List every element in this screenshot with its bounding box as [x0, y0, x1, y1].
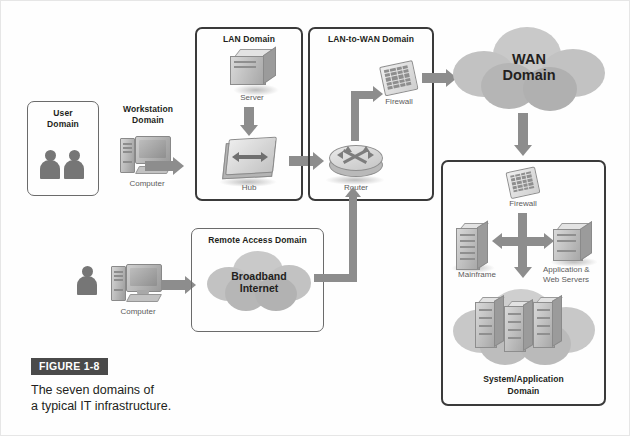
arrow-workstation-to-lan-head — [173, 157, 184, 175]
arrow-router-to-firewall-horizontal — [351, 91, 373, 99]
workstation-domain-title-line1: Workstation — [123, 104, 173, 114]
user-domain-title-line1: User — [53, 108, 72, 118]
sysapp-servers-caption-line2: Web Servers — [543, 275, 589, 284]
figure-badge: FIGURE 1-8 — [31, 358, 108, 375]
sysapp-servers-caption: Application & Web Servers — [543, 265, 611, 285]
remote-access-domain-title: Remote Access Domain — [191, 235, 324, 246]
arrow-remote-computer-shaft — [161, 280, 185, 290]
arrow-remote-to-router-vertical — [349, 197, 357, 282]
sysapp-cloud-server-3 — [533, 297, 567, 349]
lan-hub-caption: Hub — [214, 183, 284, 193]
sysapp-servers-caption-line1: Application & — [543, 265, 590, 274]
sysapp-arrow-head-down — [514, 267, 532, 278]
sysapp-mainframe-caption: Mainframe — [444, 270, 510, 280]
figure-caption: The seven domains of a typical IT infras… — [31, 382, 291, 414]
lan-server-caption: Server — [217, 93, 287, 103]
arrow-server-to-hub-head — [240, 125, 258, 136]
wan-domain-title-line2: Domain — [502, 67, 555, 83]
remote-computer-icon — [109, 262, 167, 306]
figure-caption-line2: a typical IT infrastructure. — [31, 399, 171, 413]
lan-domain-title-text: LAN Domain — [223, 34, 275, 44]
broadband-internet-cloud: Broadband Internet — [207, 251, 311, 315]
user-person-1-icon — [39, 150, 61, 180]
lan-to-wan-domain-title-text: LAN-to-WAN Domain — [328, 34, 414, 44]
figure-page: User Domain Workstation Domain Computer — [0, 0, 630, 436]
figure-caption-line1: The seven domains of — [31, 383, 154, 397]
system-application-domain-title-line1: System/Application — [483, 374, 564, 384]
remote-computer-caption: Computer — [105, 307, 171, 317]
arrow-workstation-to-lan-shaft — [145, 161, 173, 171]
arrow-remote-to-router-head — [345, 187, 361, 197]
lan-domain-title: LAN Domain — [195, 34, 303, 45]
system-application-domain-title: System/Application Domain — [441, 373, 606, 397]
broadband-internet-label: Broadband Internet — [207, 270, 311, 294]
remote-user-icon — [76, 266, 98, 296]
user-person-2-icon — [63, 150, 85, 180]
arrow-server-to-hub-shaft — [244, 107, 254, 125]
remote-access-domain-title-text: Remote Access Domain — [208, 235, 307, 245]
sysapp-arrow-horizontal — [501, 237, 544, 246]
broadband-internet-label-line1: Broadband — [231, 270, 286, 282]
broadband-internet-label-line2: Internet — [240, 282, 279, 294]
arrow-wan-to-sysapp-shaft — [518, 113, 528, 145]
sysapp-firewall-caption: Firewall — [492, 199, 554, 209]
wan-domain-cloud: WAN Domain — [453, 27, 605, 113]
arrow-wan-to-sysapp-head — [514, 145, 532, 156]
workstation-computer-caption: Computer — [114, 179, 180, 189]
lan-hub-icon — [222, 136, 276, 181]
wan-domain-title-line1: WAN — [512, 51, 546, 67]
arrow-lanwan-to-wan-shaft — [422, 73, 446, 83]
workstation-domain-title: Workstation Domain — [109, 104, 187, 126]
user-domain-title: User Domain — [27, 108, 99, 130]
system-application-domain-title-line2: Domain — [508, 386, 540, 396]
workstation-domain-title-line2: Domain — [132, 115, 164, 125]
wan-domain-title: WAN Domain — [453, 51, 605, 83]
workstation-computer-icon — [118, 134, 176, 178]
lan-to-wan-domain-title: LAN-to-WAN Domain — [308, 34, 434, 45]
sysapp-mainframe-icon — [456, 223, 496, 269]
arrow-router-to-firewall-head — [373, 86, 383, 102]
user-domain-title-line2: Domain — [47, 119, 79, 129]
sysapp-servers-icon — [553, 223, 599, 263]
lan-server-icon — [230, 49, 282, 91]
lan-to-wan-router-icon — [328, 143, 384, 181]
